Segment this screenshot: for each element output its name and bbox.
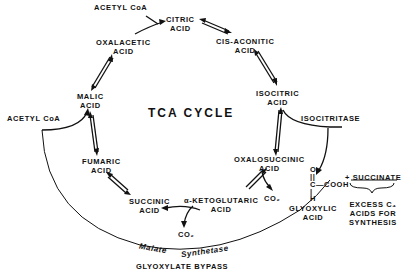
- hydrogen-atom: H: [310, 196, 349, 203]
- cis-aconitic-line1: CIS-ACONITIC: [216, 37, 274, 46]
- isocitric-line2: ACID: [256, 98, 299, 107]
- acetyl-coa-left-label: ACETYL CoA: [7, 114, 60, 123]
- citric-line1: CITRIC: [166, 15, 195, 24]
- excess-line1: EXCESS C₄: [349, 200, 397, 209]
- succinate-label: + SUCCINATE: [345, 173, 401, 182]
- alpha-ketoglutaric-acid-node: α-KETOGLUTARIC ACID: [184, 196, 258, 214]
- oxalosuccinic-line1: OXALOSUCCINIC: [234, 155, 305, 164]
- glyoxylic-line1: GLYOXYLIC: [289, 204, 337, 213]
- fumaric-line2: ACID: [82, 166, 121, 175]
- fumaric-line1: FUMARIC: [82, 157, 121, 166]
- isocitric-line1: ISOCITRIC: [256, 89, 299, 98]
- oxalacetic-acid-node: OXALACETIC ACID: [96, 38, 151, 56]
- oxalosuccinic-acid-node: OXALOSUCCINIC ACID: [234, 155, 305, 173]
- malic-line2: ACID: [77, 101, 104, 110]
- excess-line3: SYNTHESIS: [349, 218, 397, 227]
- pathway-arrows: [0, 0, 407, 277]
- co2-oxalosuccinic-label: CO₂: [264, 194, 280, 203]
- excess-line2: ACIDS FOR: [349, 209, 397, 218]
- alpha-ketoglutaric-line1: α-KETOGLUTARIC: [184, 196, 258, 205]
- acetyl-to-citric-arrow: [146, 16, 158, 24]
- glyoxylic-line2: ACID: [289, 213, 337, 222]
- citric-acid-node: CITRIC ACID: [166, 15, 195, 33]
- oxalacetic-line1: OXALACETIC: [96, 38, 151, 47]
- alpha-ketoglutaric-line2: ACID: [184, 205, 258, 214]
- isocitritase-label: ISOCITRITASE: [301, 114, 360, 123]
- cis-aconitic-acid-node: CIS-ACONITIC ACID: [216, 37, 274, 55]
- carbon-cooh: C—COOH: [310, 180, 349, 189]
- succinic-acid-node: SUCCINIC ACID: [129, 197, 170, 215]
- glyoxylic-structure: O || C—COOH | H: [310, 167, 349, 202]
- fumaric-acid-node: FUMARIC ACID: [82, 157, 121, 175]
- cis-aconitic-line2: ACID: [216, 46, 274, 55]
- malic-line1: MALIC: [77, 92, 104, 101]
- co2-ketoglutaric-label: CO₂: [178, 230, 194, 239]
- glyoxylate-bypass-label: GLYOXYLATE BYPASS: [136, 262, 228, 271]
- succinic-line1: SUCCINIC: [129, 197, 170, 206]
- excess-c4-note: EXCESS C₄ ACIDS FOR SYNTHESIS: [349, 200, 397, 227]
- succinic-line2: ACID: [129, 206, 170, 215]
- citric-line2: ACID: [166, 24, 195, 33]
- tca-cycle-diagram: ACETYL CoA CITRIC ACID CIS-ACONITIC ACID…: [0, 0, 407, 277]
- glyoxylic-acid-node: GLYOXYLIC ACID: [289, 204, 337, 222]
- oxalosuccinic-line2: ACID: [234, 164, 305, 173]
- malic-acid-node: MALIC ACID: [77, 92, 104, 110]
- isocitric-acid-node: ISOCITRIC ACID: [256, 89, 299, 107]
- acetyl-coa-top-label: ACETYL CoA: [94, 3, 147, 12]
- tca-cycle-title: TCA CYCLE: [148, 109, 234, 118]
- oxalacetic-line2: ACID: [96, 47, 151, 56]
